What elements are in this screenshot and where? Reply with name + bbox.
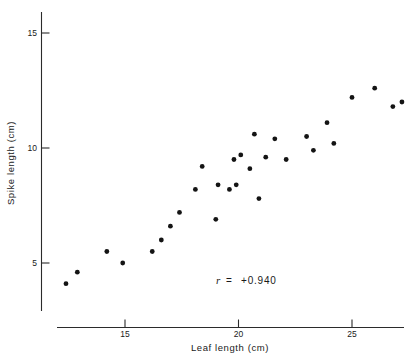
data-point	[252, 132, 257, 137]
data-point	[216, 182, 221, 187]
data-point	[272, 136, 277, 141]
correlation-symbol: r	[216, 274, 221, 286]
data-point	[168, 224, 173, 229]
data-point	[200, 164, 205, 169]
data-point	[284, 157, 289, 162]
data-point	[390, 104, 395, 109]
data-point	[213, 217, 218, 222]
x-axis-title: Leaf length (cm)	[191, 342, 269, 353]
y-axis-title: Spike length (cm)	[5, 121, 16, 205]
data-point	[159, 238, 164, 243]
data-point	[331, 141, 336, 146]
data-point	[120, 261, 125, 266]
x-tick-label: 20	[234, 329, 244, 339]
data-point	[350, 95, 355, 100]
correlation-value: +0.940	[241, 275, 277, 286]
scatter-plot-figure: 51015 152025 Leaf length (cm) Spike leng…	[0, 0, 410, 363]
data-point	[263, 155, 268, 160]
correlation-equals: =	[226, 275, 233, 286]
data-point	[325, 120, 330, 125]
data-point	[104, 249, 109, 254]
data-point	[311, 148, 316, 153]
data-point	[234, 182, 239, 187]
y-tick-label: 10	[28, 143, 38, 153]
x-tick-label: 25	[347, 329, 357, 339]
x-tick-label: 15	[120, 329, 130, 339]
data-point	[304, 134, 309, 139]
data-point	[400, 100, 405, 105]
data-point	[177, 210, 182, 215]
data-point	[232, 157, 237, 162]
data-point	[257, 196, 262, 201]
plot-canvas: 51015 152025 Leaf length (cm) Spike leng…	[0, 0, 410, 363]
x-axis-ticks: 152025	[120, 320, 357, 340]
y-tick-label: 5	[32, 258, 37, 268]
data-point	[227, 187, 232, 192]
data-point	[75, 270, 80, 275]
data-points-layer	[64, 86, 405, 286]
y-axis-ticks: 51015	[28, 28, 50, 268]
data-point	[238, 153, 243, 158]
data-point	[193, 187, 198, 192]
y-tick-label: 15	[28, 28, 38, 38]
data-point	[150, 249, 155, 254]
data-point	[247, 166, 252, 171]
data-point	[64, 281, 69, 286]
data-point	[372, 86, 377, 91]
